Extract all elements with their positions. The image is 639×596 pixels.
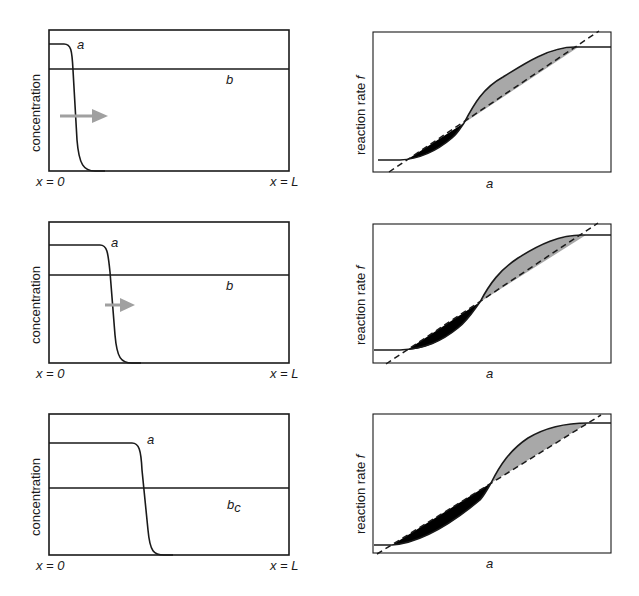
linear-dashed-line <box>377 415 601 554</box>
x-tick-L: x = L <box>269 558 299 573</box>
label-a: a <box>77 37 84 52</box>
panel-rate-3: reaction rate f a <box>353 414 611 571</box>
x-tick-0: x = 0 <box>35 366 65 381</box>
y-axis-label: reaction rate f <box>353 264 368 345</box>
y-axis-label: reaction rate f <box>353 453 368 534</box>
plot-frame <box>49 414 289 555</box>
panel-concentration-2: a b concentration x = 0 x = L <box>28 222 299 381</box>
x-tick-L: x = L <box>269 366 299 381</box>
region-loss <box>407 302 480 350</box>
figure: a b concentration x = 0 x = L a b concen… <box>0 0 639 596</box>
propagation-arrow <box>60 109 108 123</box>
plot-frame <box>49 30 289 171</box>
x-axis-label: a <box>486 366 493 381</box>
panel-rate-2: reaction rate f a <box>353 223 611 381</box>
x-axis-label: a <box>486 556 493 571</box>
y-axis-label: concentration <box>28 266 43 344</box>
x-tick-0: x = 0 <box>35 558 65 573</box>
propagation-arrow <box>105 298 135 312</box>
y-axis-label: reaction rate f <box>353 74 368 155</box>
label-bc: bc <box>227 497 241 515</box>
region-gain <box>464 46 580 123</box>
y-axis-label: concentration <box>28 74 43 152</box>
plot-frame <box>49 222 289 363</box>
rate-curve <box>378 47 611 160</box>
panel-concentration-1: a b concentration x = 0 x = L <box>28 30 299 189</box>
label-a: a <box>147 432 154 447</box>
x-axis-label: a <box>486 176 493 191</box>
panel-rate-1: reaction rate f a <box>353 31 611 191</box>
x-tick-0: x = 0 <box>35 174 65 189</box>
y-axis-label: concentration <box>28 458 43 536</box>
label-b: b <box>226 72 233 87</box>
panel-concentration-3: a bc concentration x = 0 x = L <box>28 414 299 573</box>
region-gain <box>480 235 586 302</box>
label-b: b <box>226 278 233 293</box>
label-a: a <box>111 235 118 250</box>
series-a-curve <box>49 443 173 555</box>
rate-curve <box>374 423 611 545</box>
series-a-curve <box>49 44 105 171</box>
x-tick-L: x = L <box>269 174 299 189</box>
